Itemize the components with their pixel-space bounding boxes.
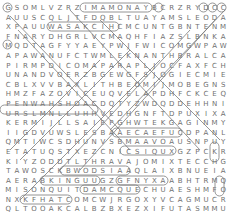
grid-letter[interactable]: O [167, 42, 176, 52]
grid-letter[interactable]: Y [21, 158, 30, 168]
grid-letter[interactable]: U [193, 167, 202, 177]
grid-letter[interactable]: H [219, 62, 228, 72]
grid-letter[interactable]: Q [4, 205, 13, 214]
grid-letter[interactable]: L [116, 14, 125, 24]
grid-letter[interactable]: T [21, 138, 30, 148]
grid-letter[interactable]: M [210, 119, 219, 129]
grid-letter[interactable]: Q [116, 186, 125, 196]
grid-letter[interactable]: A [142, 52, 151, 62]
grid-letter[interactable]: I [13, 158, 22, 168]
grid-letter[interactable]: A [142, 138, 151, 148]
grid-letter[interactable]: G [124, 71, 133, 81]
grid-letter[interactable]: A [159, 14, 168, 24]
grid-letter[interactable]: S [21, 110, 30, 120]
grid-letter[interactable]: L [64, 119, 73, 129]
grid-letter[interactable]: A [210, 42, 219, 52]
grid-letter[interactable]: H [202, 100, 211, 110]
grid-letter[interactable]: I [73, 90, 82, 100]
grid-letter[interactable]: T [116, 100, 125, 110]
grid-letter[interactable]: M [107, 4, 116, 14]
grid-letter[interactable]: T [4, 167, 13, 177]
grid-letter[interactable]: E [202, 167, 211, 177]
grid-letter[interactable]: V [38, 129, 47, 139]
grid-letter[interactable]: E [184, 71, 193, 81]
grid-letter[interactable]: C [47, 138, 56, 148]
grid-letter[interactable]: M [142, 81, 151, 91]
grid-letter[interactable]: I [90, 119, 99, 129]
grid-letter[interactable]: D [47, 62, 56, 72]
grid-letter[interactable]: C [210, 62, 219, 72]
grid-letter[interactable]: J [64, 14, 73, 24]
grid-letter[interactable]: L [142, 167, 151, 177]
grid-letter[interactable]: T [81, 158, 90, 168]
grid-letter[interactable]: B [176, 52, 185, 62]
grid-letter[interactable]: B [38, 177, 47, 187]
grid-letter[interactable]: R [21, 119, 30, 129]
grid-letter[interactable]: O [73, 62, 82, 72]
grid-letter[interactable]: D [116, 110, 125, 120]
grid-letter[interactable]: I [159, 167, 168, 177]
grid-letter[interactable]: K [81, 23, 90, 33]
grid-letter[interactable]: A [159, 33, 168, 43]
grid-letter[interactable]: D [90, 14, 99, 24]
grid-letter[interactable]: U [81, 177, 90, 187]
grid-letter[interactable]: W [219, 42, 228, 52]
grid-letter[interactable]: R [167, 4, 176, 14]
grid-letter[interactable]: D [81, 186, 90, 196]
grid-letter[interactable]: D [64, 138, 73, 148]
grid-letter[interactable]: I [116, 148, 125, 158]
grid-letter[interactable]: A [219, 167, 228, 177]
grid-letter[interactable]: Z [99, 205, 108, 214]
grid-letter[interactable]: A [124, 167, 133, 177]
grid-letter[interactable]: G [47, 42, 56, 52]
grid-letter[interactable]: T [176, 205, 185, 214]
grid-letter[interactable]: H [56, 33, 65, 43]
grid-letter[interactable]: X [150, 177, 159, 187]
grid-letter[interactable]: M [30, 4, 39, 14]
grid-letter[interactable]: T [56, 196, 65, 206]
grid-letter[interactable]: M [150, 158, 159, 168]
grid-letter[interactable]: T [193, 177, 202, 187]
grid-letter[interactable]: U [4, 71, 13, 81]
grid-letter[interactable]: A [142, 14, 151, 24]
grid-letter[interactable]: O [159, 62, 168, 72]
grid-letter[interactable]: A [13, 167, 22, 177]
grid-letter[interactable]: G [4, 4, 13, 14]
grid-letter[interactable]: A [176, 196, 185, 206]
grid-letter[interactable]: L [73, 158, 82, 168]
grid-letter[interactable]: C [202, 158, 211, 168]
grid-letter[interactable]: X [13, 196, 22, 206]
grid-letter[interactable]: C [133, 23, 142, 33]
grid-letter[interactable]: X [73, 81, 82, 91]
grid-letter[interactable]: U [21, 14, 30, 24]
grid-letter[interactable]: G [116, 119, 125, 129]
grid-letter[interactable]: B [56, 81, 65, 91]
grid-letter[interactable]: S [176, 14, 185, 24]
grid-letter[interactable]: S [142, 71, 151, 81]
grid-letter[interactable]: C [210, 4, 219, 14]
grid-letter[interactable]: W [47, 23, 56, 33]
grid-letter[interactable]: T [159, 23, 168, 33]
grid-letter[interactable]: A [202, 129, 211, 139]
grid-letter[interactable]: T [176, 158, 185, 168]
grid-letter[interactable]: C [90, 23, 99, 33]
grid-letter[interactable]: A [38, 52, 47, 62]
grid-letter[interactable]: Z [47, 90, 56, 100]
grid-letter[interactable]: D [90, 167, 99, 177]
grid-letter[interactable]: I [38, 119, 47, 129]
grid-letter[interactable]: A [150, 167, 159, 177]
grid-letter[interactable]: E [116, 52, 125, 62]
grid-letter[interactable]: C [116, 23, 125, 33]
grid-letter[interactable]: U [4, 110, 13, 120]
grid-letter[interactable]: X [4, 23, 13, 33]
grid-letter[interactable]: C [99, 148, 108, 158]
grid-letter[interactable]: A [73, 23, 82, 33]
grid-letter[interactable]: O [30, 186, 39, 196]
grid-letter[interactable]: Y [219, 119, 228, 129]
grid-letter[interactable]: N [13, 33, 22, 43]
grid-letter[interactable]: U [99, 90, 108, 100]
grid-letter[interactable]: E [4, 148, 13, 158]
grid-letter[interactable]: H [38, 196, 47, 206]
grid-letter[interactable]: I [176, 71, 185, 81]
grid-letter[interactable]: C [167, 196, 176, 206]
